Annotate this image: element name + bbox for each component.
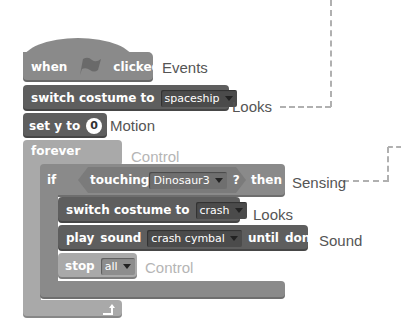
if-bottom — [40, 281, 285, 299]
forever-arm — [23, 164, 41, 304]
forever-label: forever — [31, 144, 80, 158]
if-arm — [40, 195, 58, 285]
chevron-down-icon — [123, 264, 131, 269]
sound-dropdown-value: crash cymbal — [151, 232, 225, 245]
set-y-block[interactable]: set y to 0 — [23, 113, 107, 138]
category-label-looks-2: Looks — [253, 206, 293, 223]
stop-block[interactable]: stop all — [58, 253, 137, 279]
switch-costume-label: switch costume to — [66, 203, 190, 217]
then-label: then — [251, 173, 282, 187]
category-label-events: Events — [162, 59, 208, 76]
chevron-down-icon — [230, 236, 238, 241]
costume-dropdown-value: crash — [200, 204, 230, 217]
costume-dropdown[interactable]: crash — [196, 202, 247, 219]
touching-label: touching — [90, 173, 149, 187]
category-label-sound: Sound — [319, 232, 362, 249]
loop-arrow-icon — [102, 301, 118, 320]
play-sound-block[interactable]: play sound crash cymbal until done — [58, 225, 308, 251]
stop-dropdown-value: all — [105, 260, 118, 273]
until-label: until — [248, 231, 279, 245]
switch-costume-crash-block[interactable]: switch costume to crash — [58, 197, 240, 223]
category-label-sensing: Sensing — [292, 174, 346, 191]
category-label-looks: Looks — [232, 98, 272, 115]
chevron-down-icon — [215, 178, 223, 183]
question-mark-label: ? — [233, 173, 240, 187]
set-y-label: set y to — [29, 119, 80, 133]
when-flag-clicked-block[interactable]: when clicked — [23, 52, 153, 82]
switch-costume-label: switch costume to — [31, 91, 155, 105]
switch-costume-block[interactable]: switch costume to spaceship — [23, 85, 229, 111]
callout-line-top-2 — [388, 146, 401, 148]
category-label-control-stop: Control — [145, 259, 193, 276]
when-label: when — [31, 60, 67, 74]
play-label: play — [66, 231, 94, 245]
done-label: done — [285, 231, 319, 245]
callout-line-horizontal-1 — [280, 106, 331, 108]
sound-label: sound — [100, 231, 141, 245]
callout-line-vertical-2 — [387, 147, 389, 181]
clicked-label: clicked — [113, 60, 160, 74]
green-flag-icon — [77, 56, 103, 79]
chevron-down-icon — [235, 208, 243, 213]
costume-dropdown[interactable]: spaceship — [161, 90, 237, 107]
if-label: if — [47, 173, 56, 187]
sound-dropdown[interactable]: crash cymbal — [147, 230, 242, 247]
callout-line-vertical-1 — [330, 0, 332, 107]
callout-line-horizontal-2 — [343, 180, 389, 182]
y-value-input[interactable]: 0 — [86, 118, 102, 134]
sprite-dropdown[interactable]: Dinosaur3 — [149, 172, 226, 189]
stop-dropdown[interactable]: all — [101, 258, 135, 275]
costume-dropdown-value: spaceship — [165, 92, 220, 105]
touching-condition[interactable]: touching Dinosaur3 ? — [78, 167, 246, 193]
stop-label: stop — [65, 259, 95, 273]
category-label-control-forever: Control — [131, 148, 179, 165]
category-label-motion: Motion — [110, 117, 155, 134]
sprite-dropdown-value: Dinosaur3 — [153, 174, 209, 187]
